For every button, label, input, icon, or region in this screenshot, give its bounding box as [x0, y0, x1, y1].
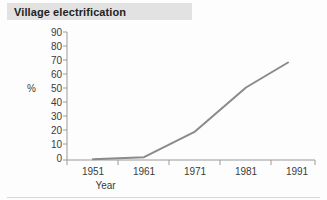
x-tick-label: 1981 — [226, 166, 266, 177]
x-axis-ticks — [67, 160, 315, 165]
x-tick-label: 1961 — [124, 166, 164, 177]
chart-page: Village electrification 90 80 70 60 50 4… — [0, 0, 327, 200]
chart-title-band: Village electrification — [7, 3, 192, 20]
x-tick-label: 1971 — [175, 166, 215, 177]
y-axis-ticks — [63, 32, 67, 160]
data-series-line — [93, 63, 288, 160]
chart-area: 90 80 70 60 50 40 30 20 10 0 % — [0, 20, 327, 200]
x-axis-label: Year — [0, 180, 327, 191]
bottom-divider — [7, 197, 320, 198]
x-tick-label: 1991 — [277, 166, 317, 177]
page-title: Village electrification — [7, 6, 126, 18]
x-tick-label: 1951 — [73, 166, 113, 177]
x-axis-label-text: Year — [95, 180, 115, 191]
